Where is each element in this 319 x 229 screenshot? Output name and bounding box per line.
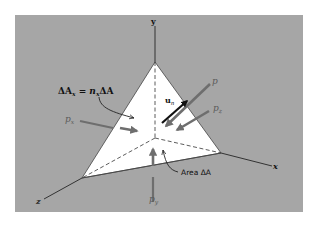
x-axis-label: x <box>272 161 278 171</box>
area-label: Area ΔA <box>181 168 212 177</box>
delta-ax-equation: ΔAx = nxΔA <box>58 86 114 97</box>
y-axis-label: y <box>150 16 156 26</box>
z-axis-label: z <box>35 196 41 206</box>
tetrahedron-stress-diagram: y x z ΔAx = nxΔA px py p pz un Area ΔA <box>0 0 319 229</box>
p-label: p <box>212 76 218 86</box>
